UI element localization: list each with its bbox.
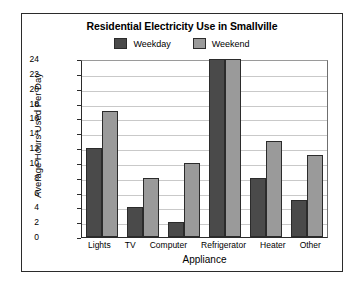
bar-weekend-lights: [102, 111, 118, 237]
x-axis-title: Appliance: [81, 254, 328, 265]
y-axis-tick-label: 18: [13, 100, 39, 109]
bar-group: [250, 61, 282, 237]
bar-weekday-tv: [127, 207, 143, 237]
y-axis-tick-label: 0: [13, 233, 39, 242]
y-axis-tick-label: 2: [13, 218, 39, 227]
x-axis-tick-label: Refrigerator: [201, 240, 246, 250]
bar-group: [209, 61, 241, 237]
y-axis-tick-label: 12: [13, 144, 39, 153]
bar-weekend-tv: [143, 178, 159, 237]
y-axis-tick-label: 8: [13, 174, 39, 183]
plot-wrapper: Average Hours Used Per Day 0246810121416…: [22, 14, 342, 271]
bar-weekend-heater: [266, 141, 282, 237]
bar-weekday-refrigerator: [209, 59, 225, 237]
x-axis-tick-label: Other: [300, 240, 321, 250]
bar-groups: [82, 61, 327, 237]
chart-container: Residential Electricity Use in Smallvill…: [21, 13, 343, 272]
bar-group: [168, 61, 200, 237]
x-axis-tick-label: Computer: [150, 240, 187, 250]
bar-weekday-other: [291, 200, 307, 237]
y-axis-tick-mark: [77, 238, 81, 239]
x-axis-tick-label: Heater: [260, 240, 286, 250]
x-axis-tick-label: Lights: [88, 240, 111, 250]
y-axis-tick-label: 16: [13, 114, 39, 123]
bar-group: [86, 61, 118, 237]
y-axis-tick-label: 22: [13, 70, 39, 79]
bar-weekday-computer: [168, 222, 184, 237]
bar-weekday-heater: [250, 178, 266, 237]
bar-weekend-refrigerator: [225, 59, 241, 237]
bar-weekend-computer: [184, 163, 200, 237]
x-axis-tick-label: TV: [125, 240, 136, 250]
plot-area: [81, 60, 328, 238]
bar-group: [291, 61, 323, 237]
bar-weekend-other: [307, 155, 323, 237]
y-axis-tick-label: 20: [13, 85, 39, 94]
bar-weekday-lights: [86, 148, 102, 237]
y-axis-tick-label: 10: [13, 159, 39, 168]
y-axis-tick-label: 4: [13, 203, 39, 212]
bar-group: [127, 61, 159, 237]
x-axis-labels: LightsTVComputerRefrigeratorHeaterOther: [81, 240, 328, 250]
y-axis-tick-label: 24: [13, 55, 39, 64]
y-axis-tick-label: 14: [13, 129, 39, 138]
y-axis-tick-label: 6: [13, 189, 39, 198]
